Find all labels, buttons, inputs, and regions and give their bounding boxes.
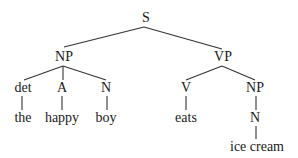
tree-edge xyxy=(24,66,63,80)
tree-node-v: V xyxy=(181,81,191,95)
tree-node-boy: boy xyxy=(96,111,117,125)
tree-node-icecream: ice cream xyxy=(230,140,284,154)
tree-edge xyxy=(63,66,106,80)
tree-node-n2: N xyxy=(250,111,260,125)
tree-edge xyxy=(186,66,222,80)
tree-node-n1: N xyxy=(101,81,111,95)
tree-node-det: det xyxy=(14,81,31,95)
syntax-tree-diagram: SNPVPdetANVNPthehappyboyeatsNice cream xyxy=(0,0,298,158)
tree-node-eats: eats xyxy=(175,111,197,125)
tree-node-happy: happy xyxy=(45,111,79,125)
tree-node-a: A xyxy=(57,81,67,95)
tree-edge xyxy=(222,66,255,80)
tree-node-np1: NP xyxy=(55,50,73,64)
tree-node-s: S xyxy=(142,11,150,25)
tree-edge xyxy=(144,27,222,49)
tree-edge xyxy=(64,27,144,47)
tree-node-the: the xyxy=(14,111,31,125)
tree-node-np2: NP xyxy=(246,81,264,95)
tree-node-vp: VP xyxy=(214,50,232,64)
